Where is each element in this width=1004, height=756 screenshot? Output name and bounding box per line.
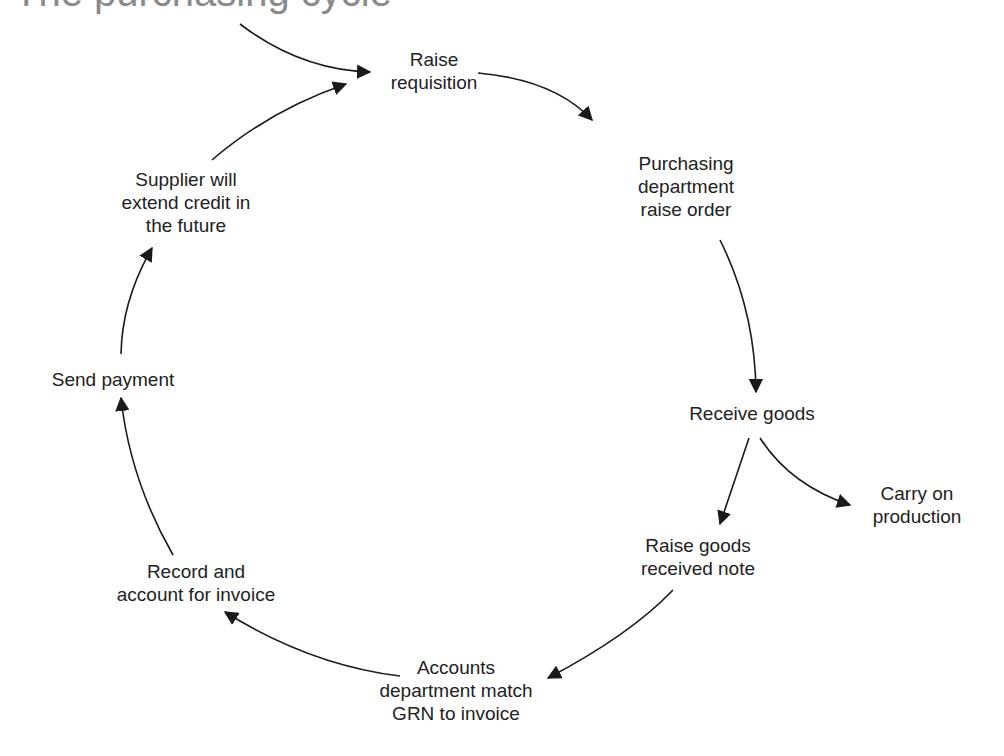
arrow-receive-to-grn bbox=[720, 438, 749, 524]
node-raise-requisition: Raise requisition bbox=[391, 48, 478, 94]
node-receive-goods: Receive goods bbox=[689, 402, 815, 425]
arrow-accounts-to-record bbox=[225, 612, 400, 676]
arrow-record-to-payment bbox=[121, 398, 173, 555]
node-send-payment: Send payment bbox=[52, 368, 175, 391]
arrow-payment-to-supplier bbox=[121, 248, 152, 354]
node-accounts-match: Accounts department match GRN to invoice bbox=[379, 656, 532, 725]
arrow-receive-to-production bbox=[760, 438, 850, 505]
arrow-supplier-to-requisition bbox=[212, 84, 346, 160]
arrow-grn-to-accounts bbox=[548, 590, 673, 678]
node-supplier-credit: Supplier will extend credit in the futur… bbox=[122, 168, 251, 237]
arrow-order-to-receive bbox=[720, 240, 756, 392]
node-raise-grn: Raise goods received note bbox=[641, 534, 755, 580]
node-purchasing-raise-order: Purchasing department raise order bbox=[638, 152, 734, 221]
arrow-requisition-to-order bbox=[478, 73, 592, 120]
node-record-invoice: Record and account for invoice bbox=[117, 560, 275, 606]
node-carry-on-production: Carry on production bbox=[873, 482, 962, 528]
arrow-entry-to-requisition bbox=[240, 24, 370, 72]
